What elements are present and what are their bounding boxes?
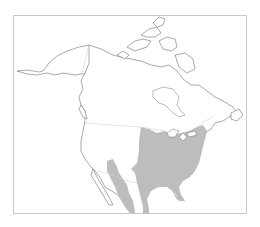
map-frame [13,15,247,214]
map-caption [0,0,260,4]
north-america-map [13,15,247,214]
range-eastern-us [131,125,207,214]
